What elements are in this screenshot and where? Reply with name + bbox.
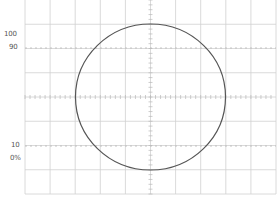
label-0-percent: 0% <box>10 155 21 162</box>
label-90: 90 <box>9 44 18 51</box>
oscilloscope-graticule <box>0 0 280 210</box>
label-100: 100 <box>4 31 17 38</box>
label-10: 10 <box>11 142 20 149</box>
